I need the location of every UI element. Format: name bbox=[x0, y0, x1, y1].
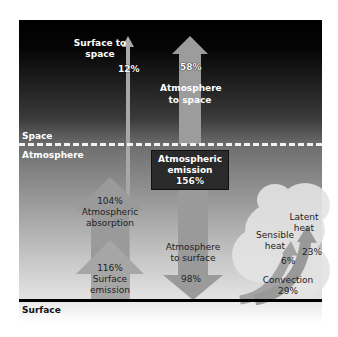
atmosphere-to-surface-label-line2: to surface bbox=[160, 253, 226, 264]
atmospheric-emission-label-line1: Atmospheric bbox=[152, 154, 228, 165]
convection-value: 29% bbox=[258, 286, 318, 297]
space-label: Space bbox=[22, 131, 52, 141]
atmospheric-absorption-label: 104% Atmospheric absorption bbox=[78, 196, 142, 229]
convection-label: Convection 29% bbox=[258, 275, 318, 297]
atmospheric-emission-value: 156% bbox=[152, 176, 228, 187]
surface-emission-value: 116% bbox=[78, 263, 142, 274]
space-atmosphere-boundary bbox=[19, 143, 322, 146]
atmospheric-absorption-value: 104% bbox=[78, 196, 142, 207]
atmospheric-emission-box: Atmospheric emission 156% bbox=[151, 150, 229, 190]
atmosphere-to-surface-label-line1: Atmosphere bbox=[160, 242, 226, 253]
surface-to-space-label-line1: Surface to bbox=[72, 38, 128, 49]
surface-emission-label-line2: emission bbox=[78, 285, 142, 296]
surface-emission-label: 116% Surface emission bbox=[78, 263, 142, 296]
atmosphere-to-space-label-line1: Atmosphere bbox=[160, 82, 220, 94]
surface-to-space-label: Surface to space bbox=[72, 38, 128, 60]
atmospheric-emission-label-line2: emission bbox=[152, 165, 228, 176]
surface-line bbox=[19, 299, 322, 302]
atmospheric-absorption-label-line1: Atmospheric bbox=[78, 207, 142, 218]
atmosphere-to-surface-value: 98% bbox=[181, 274, 201, 284]
atmosphere-label: Atmosphere bbox=[22, 150, 84, 160]
latent-heat-label-line2: heat bbox=[286, 223, 322, 234]
convection-label-text: Convection bbox=[258, 275, 318, 286]
surface-label: Surface bbox=[22, 305, 61, 315]
latent-heat-label: Latent heat bbox=[286, 212, 322, 234]
latent-heat-label-line1: Latent bbox=[286, 212, 322, 223]
atmosphere-to-space-value: 58% bbox=[180, 62, 202, 72]
surface-to-space-value: 12% bbox=[118, 64, 140, 74]
surface-emission-label-line1: Surface bbox=[78, 274, 142, 285]
atmosphere-to-space-label: Atmosphere to space bbox=[160, 82, 220, 106]
atmosphere-to-surface-label: Atmosphere to surface bbox=[160, 242, 226, 264]
sensible-heat-value: 6% bbox=[281, 256, 295, 266]
sensible-heat-label-line2: heat bbox=[255, 241, 295, 252]
latent-heat-value: 23% bbox=[302, 247, 322, 257]
atmosphere-to-space-label-line2: to space bbox=[160, 94, 220, 106]
surface-to-space-label-line2: space bbox=[72, 49, 128, 60]
atmospheric-absorption-label-line2: absorption bbox=[78, 218, 142, 229]
